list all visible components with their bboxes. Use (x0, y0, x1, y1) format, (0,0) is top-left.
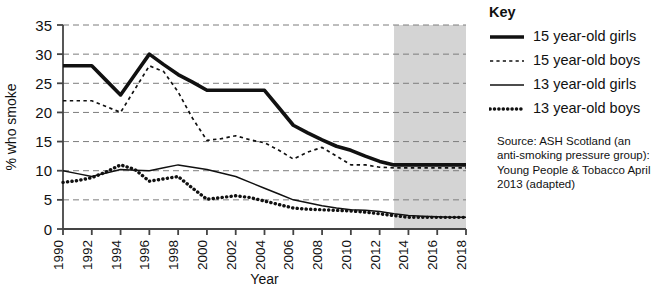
source-line-2: anti-smoking pressure group): (497, 148, 663, 162)
key-label-13-year-old-girls: 13 year-old girls (533, 75, 636, 94)
y-tick-label: 0 (44, 221, 52, 238)
source-line-1: Source: ASH Scotland (an (497, 134, 663, 148)
y-tick-label: 5 (44, 191, 52, 208)
key-item-13-year-old-boys: 13 year-old boys (489, 99, 663, 118)
chart-key: Key 15 year-old girls 15 year-old boys 1… (489, 4, 663, 123)
x-tick-label: 2014 (396, 240, 411, 271)
y-tick-label: 10 (35, 162, 52, 179)
y-tick-label: 30 (35, 46, 52, 63)
x-tick-label: 2008 (310, 240, 325, 270)
key-swatch-thin-solid-icon (489, 78, 525, 92)
x-tick-label: 1990 (51, 240, 66, 270)
key-label-15-year-old-boys: 15 year-old boys (533, 51, 640, 70)
line-chart-svg: 0510152025303519901992199419961998200020… (0, 0, 480, 288)
y-axis-title: % who smoke (3, 83, 19, 170)
key-heading: Key (489, 4, 663, 20)
key-swatch-thick-solid-icon (489, 30, 525, 44)
key-swatch-thick-dotted-icon (489, 102, 525, 116)
key-item-15-year-old-girls: 15 year-old girls (489, 27, 663, 46)
x-tick-label: 1996 (137, 240, 152, 270)
key-swatch-thin-dashed-icon (489, 54, 525, 68)
key-item-15-year-old-boys: 15 year-old boys (489, 51, 663, 70)
x-tick-label: 1998 (166, 240, 181, 270)
x-tick-label: 1994 (109, 240, 124, 271)
source-line-4: 2013 (adapted) (497, 177, 663, 191)
chart-figure: 0510152025303519901992199419961998200020… (0, 0, 663, 288)
source-note: Source: ASH Scotland (an anti-smoking pr… (497, 134, 663, 192)
x-tick-label: 2016 (425, 240, 440, 270)
x-tick-label: 2018 (454, 240, 469, 270)
x-tick-label: 2002 (224, 240, 239, 270)
x-tick-label: 1992 (80, 240, 95, 270)
y-tick-label: 35 (35, 17, 52, 34)
x-tick-label: 2012 (368, 240, 383, 270)
x-tick-label: 2010 (339, 240, 354, 270)
x-axis-title: Year (250, 271, 279, 287)
y-tick-label: 20 (35, 104, 52, 121)
x-tick-label: 2004 (253, 240, 268, 271)
source-line-3: Young People & Tobacco April (497, 163, 663, 177)
x-tick-label: 2000 (195, 240, 210, 270)
key-label-15-year-old-girls: 15 year-old girls (533, 27, 636, 46)
key-item-13-year-old-girls: 13 year-old girls (489, 75, 663, 94)
y-tick-label: 25 (35, 75, 52, 92)
x-tick-label: 2006 (281, 240, 296, 270)
projection-shaded-region (394, 25, 466, 229)
y-tick-label: 15 (35, 133, 52, 150)
key-label-13-year-old-boys: 13 year-old boys (533, 99, 640, 118)
plot-area: 0510152025303519901992199419961998200020… (0, 0, 480, 288)
